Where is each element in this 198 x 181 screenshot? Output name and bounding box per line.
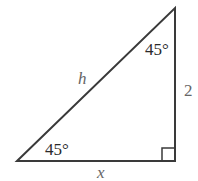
bottom-angle-label: 45° (45, 140, 69, 159)
top-angle-label: 45° (145, 40, 169, 59)
triangle-shape (17, 8, 175, 161)
triangle-diagram: 45° 45° h 2 x (0, 0, 198, 181)
base-label: x (96, 163, 105, 181)
vertical-side-label: 2 (184, 81, 193, 100)
right-angle-marker (162, 148, 175, 161)
hypotenuse-label: h (78, 69, 87, 88)
